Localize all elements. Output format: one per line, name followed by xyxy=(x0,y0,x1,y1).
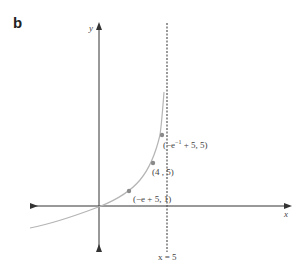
point-label-3: (−e + 5, 1) xyxy=(133,194,171,204)
function-curve xyxy=(30,92,164,228)
point-marker xyxy=(127,189,131,193)
point-label-2: (4 , 5) xyxy=(152,167,174,177)
x-axis-label: x xyxy=(283,209,288,219)
point-label-1: (−e−1 + 5, 5) xyxy=(163,139,208,150)
function-graph: y x x = 5 (−e−1 + 5, 5) (4 , 5) (−e + 5,… xyxy=(0,0,306,271)
asymptote-label: x = 5 xyxy=(158,252,177,262)
point-marker xyxy=(151,161,155,165)
point-marker xyxy=(160,133,164,137)
y-axis-label: y xyxy=(88,23,93,33)
